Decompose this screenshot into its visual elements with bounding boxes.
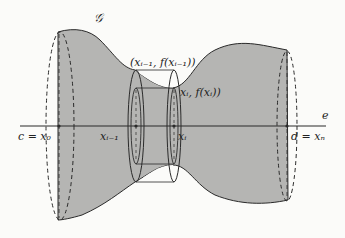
point-xn: [285, 124, 288, 127]
right-end-label: d = xₙ: [291, 131, 325, 142]
x-prev-label: xᵢ₋₁: [100, 131, 119, 142]
point-curr-label: xᵢ, f(xᵢ)): [180, 87, 221, 98]
point-prev-label: (xᵢ₋₁, f(xᵢ₋₁)): [130, 57, 196, 68]
point-x0: [57, 124, 60, 127]
solid-of-revolution-diagram: [0, 0, 345, 238]
left-end-label: c = x₀: [18, 131, 51, 142]
axis-label: e: [322, 110, 329, 121]
x-curr-label: xᵢ: [178, 131, 186, 142]
point-xi-1: [134, 124, 137, 127]
point-xi: [172, 124, 175, 127]
curve-label: 𝒢: [94, 12, 103, 24]
